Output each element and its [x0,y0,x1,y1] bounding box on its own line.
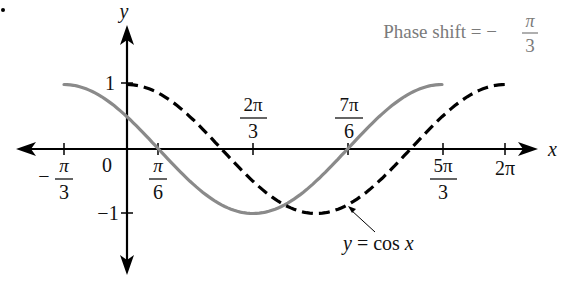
svg-text:6: 6 [153,181,163,203]
svg-text:3: 3 [525,35,535,56]
svg-text:π: π [525,11,535,31]
x-tick-label-neg-pi-over-3: − π 3 [38,155,73,203]
callout-arrowhead-icon [348,206,356,213]
svg-text:7π: 7π [339,94,359,115]
x-tick-label-5pi-over-3: 5π 3 [430,155,457,203]
x-axis-label: x [547,138,557,160]
chart-canvas: y x 1 −1 0 − π 3 π 6 2π 3 7π 6 5π 3 2π y… [0,0,567,285]
svg-text:Phase shift = −: Phase shift = − [383,21,497,42]
y-tick-label-neg1: −1 [97,202,118,224]
svg-text:π: π [153,155,163,176]
svg-text:π: π [59,155,69,176]
x-axis [16,142,538,156]
svg-text:3: 3 [438,181,448,203]
x-tick-label-pi-over-6: π 6 [149,155,167,203]
bullet-dot [1,8,5,12]
svg-text:5π: 5π [433,155,453,176]
svg-text:−: − [38,165,49,187]
svg-text:6: 6 [344,120,354,142]
y-axis-label: y [118,0,129,23]
y-tick-label-1: 1 [105,72,115,94]
svg-text:3: 3 [59,181,69,203]
origin-label: 0 [102,154,112,176]
x-tick-label-2pi: 2π [495,157,515,179]
callout-label-y-equals-cos-x: y = cos x [341,232,414,255]
svg-text:3: 3 [248,120,258,142]
x-tick-label-2pi-over-3: 2π 3 [240,94,267,142]
phase-shift-annotation: Phase shift = − π 3 [383,11,538,56]
svg-text:2π: 2π [243,94,263,115]
callout-arrow [351,210,375,232]
